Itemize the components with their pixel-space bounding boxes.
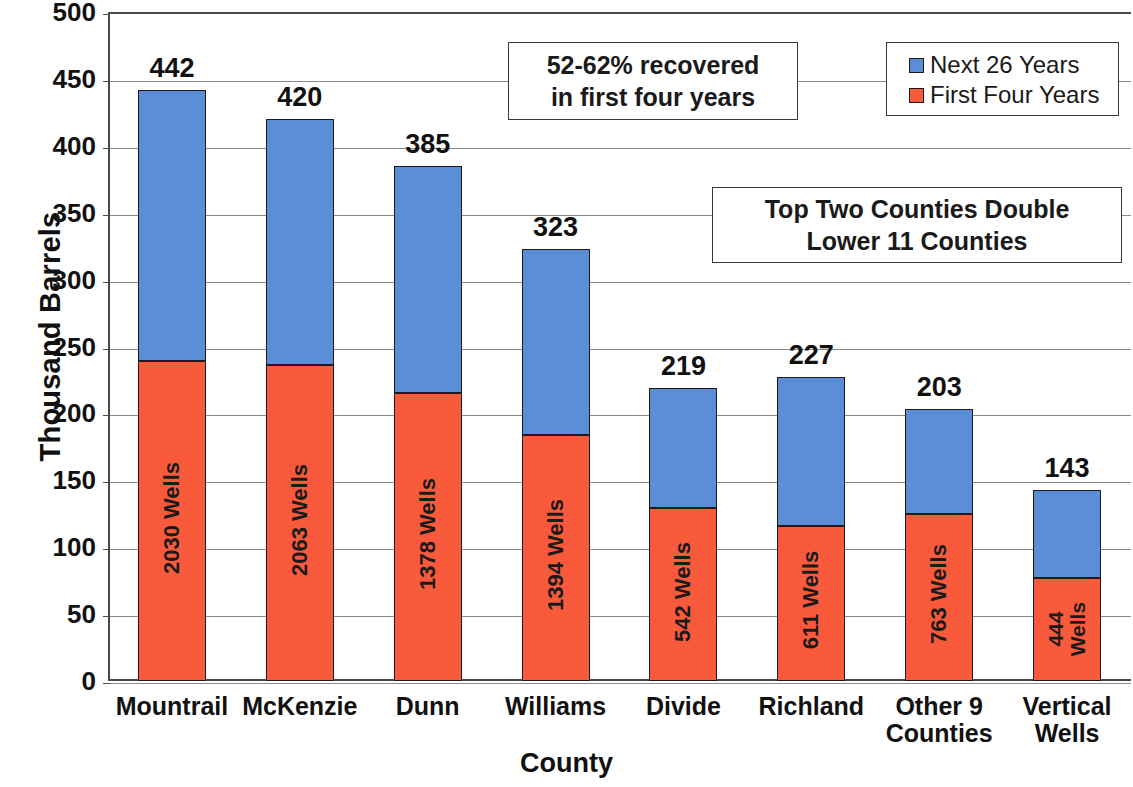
y-axis-tick-mark [103, 683, 110, 684]
y-axis-tick-label: 450 [6, 66, 96, 92]
bar-group: 227611 Wells [777, 377, 845, 681]
x-axis-tick-label-line: Dunn [364, 693, 492, 720]
bar-segment-next-26-years [394, 166, 462, 393]
bar-group: 203763 Wells [905, 409, 973, 681]
bar-wells-label: 1394 Wells [543, 499, 569, 611]
bar-wells-label: 2063 Wells [287, 464, 313, 576]
annotation-top-counties-line-1: Top Two Counties Double [765, 193, 1070, 225]
legend-item-next-26-years: Next 26 Years [909, 50, 1118, 80]
annotation-top-counties: Top Two Counties Double Lower 11 Countie… [712, 187, 1122, 263]
x-axis-tick-label: VerticalWells [1003, 693, 1131, 747]
gridline [110, 683, 1131, 684]
x-axis-tick-label-line: Other 9 [875, 693, 1003, 720]
y-axis-tick-label: 50 [6, 601, 96, 627]
bar-segment-next-26-years [138, 90, 206, 362]
x-axis-tick-label: Dunn [364, 693, 492, 720]
legend-swatch-icon [909, 88, 924, 103]
x-axis-tick-label: Richland [747, 693, 875, 720]
bar-wells-label: 763 Wells [926, 544, 952, 644]
legend-label: First Four Years [930, 81, 1099, 109]
bar-group: 3231394 Wells [522, 249, 590, 681]
y-axis-tick-label: 100 [6, 534, 96, 560]
x-axis-tick-label-line: McKenzie [236, 693, 364, 720]
legend: Next 26 Years First Four Years [886, 42, 1119, 116]
x-axis-tick-label: Mountrail [108, 693, 236, 720]
bar-wells-label: 1378 Wells [415, 478, 441, 590]
x-axis-tick-label-line: Mountrail [108, 693, 236, 720]
bar-segment-next-26-years [522, 249, 590, 435]
y-axis-tick-label: 250 [6, 334, 96, 360]
bar-total-label: 323 [533, 212, 578, 243]
y-axis-tick-label: 200 [6, 400, 96, 426]
bar-segment-next-26-years [1033, 490, 1101, 578]
bar-segment-next-26-years [905, 409, 973, 513]
x-axis-tick-label-line: Counties [875, 720, 1003, 747]
x-axis-tick-label: Other 9Counties [875, 693, 1003, 747]
bar-group: 143444Wells [1033, 490, 1101, 681]
legend-item-first-four-years: First Four Years [909, 80, 1118, 110]
bar-group: 3851378 Wells [394, 166, 462, 681]
bar-group: 4422030 Wells [138, 90, 206, 681]
y-axis-tick-label: 300 [6, 267, 96, 293]
y-axis-tick-label: 350 [6, 200, 96, 226]
x-axis-tick-label: Williams [492, 693, 620, 720]
bar-total-label: 219 [661, 351, 706, 382]
x-axis-tick-label-line: Vertical [1003, 693, 1131, 720]
bar-wells-label: 611 Wells [798, 551, 824, 650]
bar-wells-label: 444Wells [1045, 583, 1089, 676]
x-axis-tick-label-line: Williams [492, 693, 620, 720]
bar-total-label: 385 [405, 129, 450, 160]
x-axis-tick-label-line: Richland [747, 693, 875, 720]
y-axis-tick-label: 150 [6, 467, 96, 493]
annotation-recovery: 52-62% recovered in first four years [508, 42, 798, 120]
bar-total-label: 420 [277, 82, 322, 113]
bar-segment-next-26-years [777, 377, 845, 526]
bar-total-label: 442 [149, 53, 194, 84]
legend-swatch-icon [909, 58, 924, 73]
y-axis-tick-label: 0 [6, 668, 96, 694]
bar-wells-label: 542 Wells [670, 542, 696, 642]
bar-total-label: 143 [1045, 453, 1090, 484]
x-axis-tick-label-line: Divide [620, 693, 748, 720]
legend-label: Next 26 Years [930, 51, 1079, 79]
annotation-recovery-line-2: in first four years [551, 81, 755, 113]
x-axis-title: County [0, 748, 1133, 779]
bar-total-label: 203 [917, 372, 962, 403]
bar-total-label: 227 [789, 340, 834, 371]
x-axis-tick-label-line: Wells [1003, 720, 1131, 747]
x-axis-tick-label: Divide [620, 693, 748, 720]
bar-chart: Thousand Barrels 50045040035030025020015… [0, 0, 1133, 787]
y-axis-tick-label: 500 [6, 0, 96, 25]
x-axis-tick-label: McKenzie [236, 693, 364, 720]
bar-segment-next-26-years [649, 388, 717, 508]
bar-group: 4202063 Wells [266, 119, 334, 681]
bar-wells-label: 2030 Wells [159, 462, 185, 574]
bar-segment-next-26-years [266, 119, 334, 365]
bar-group: 219542 Wells [649, 388, 717, 681]
annotation-top-counties-line-2: Lower 11 Counties [807, 225, 1028, 257]
annotation-recovery-line-1: 52-62% recovered [547, 49, 760, 81]
y-axis-tick-label: 400 [6, 133, 96, 159]
